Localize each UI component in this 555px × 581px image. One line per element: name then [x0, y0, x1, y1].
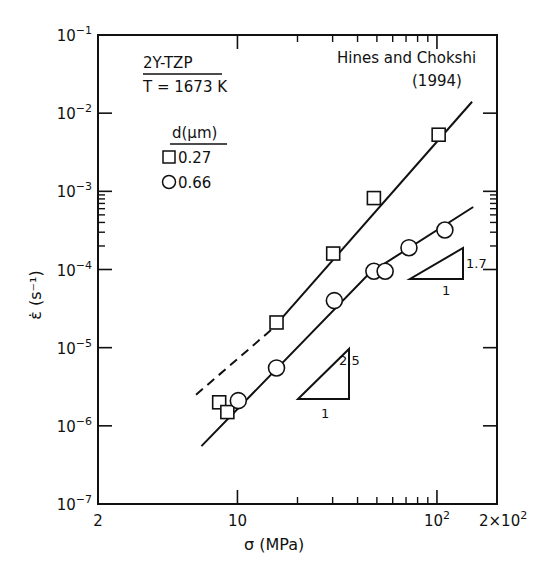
square-marker — [327, 247, 340, 260]
square-marker — [367, 192, 380, 205]
axis-tick-labels: 10−110−210−310−410−510−610−72101022×102 — [57, 24, 528, 530]
x-tick-label: 10 — [228, 512, 247, 530]
y-tick-label: 10−6 — [57, 415, 92, 436]
slope-2.5-run-label: 1 — [321, 406, 329, 421]
legend-circle-icon — [163, 176, 176, 189]
source-label: Hines and Chokshi — [337, 49, 476, 67]
y-tick-label: 10−1 — [57, 24, 92, 45]
square-marker — [221, 406, 234, 419]
legend-label-0.66: 0.66 — [178, 174, 211, 192]
temperature-label: T = 1673 K — [142, 78, 228, 96]
y-tick-label: 10−7 — [57, 493, 92, 514]
circle-marker — [269, 360, 285, 376]
circle-marker — [230, 393, 246, 409]
x-tick-label: 102 — [424, 509, 450, 530]
legend-square-icon — [163, 151, 175, 163]
square-marker — [432, 128, 445, 141]
y-tick-label: 10−2 — [57, 102, 92, 123]
x-tick-label: 2×102 — [479, 509, 527, 530]
circle-marker — [326, 293, 342, 309]
legend-title: d(μm) — [172, 124, 217, 142]
fit-line-0.66 — [201, 207, 473, 446]
axis-ticks — [98, 35, 497, 504]
legend-label-0.27: 0.27 — [178, 149, 211, 167]
circle-marker — [401, 240, 417, 256]
circle-marker — [377, 263, 393, 279]
material-label: 2Y-TZP — [143, 54, 192, 72]
y-tick-label: 10−5 — [57, 337, 92, 358]
chart-svg: 10−110−210−310−410−510−610−72101022×102 … — [0, 0, 555, 581]
x-tick-label: 2 — [93, 512, 103, 530]
chart-container: 10−110−210−310−410−510−610−72101022×102 … — [0, 0, 555, 581]
year-label: (1994) — [412, 72, 462, 90]
slope-2.5-rise-label: 2.5 — [339, 353, 360, 368]
plot-frame — [98, 35, 497, 504]
y-tick-label: 10−4 — [57, 259, 92, 280]
square-marker — [270, 316, 283, 329]
slope-triangle-1.7 — [410, 248, 463, 279]
plot-axes — [98, 35, 497, 504]
y-tick-label: 10−3 — [57, 180, 92, 201]
data-markers — [213, 128, 453, 418]
x-axis-label: σ (MPa) — [244, 535, 304, 554]
circle-marker — [437, 222, 453, 238]
slope-1.7-run-label: 1 — [442, 283, 450, 298]
y-axis-label: ε̇ (s⁻¹) — [26, 270, 45, 319]
slope-1.7-rise-label: 1.7 — [466, 256, 487, 271]
